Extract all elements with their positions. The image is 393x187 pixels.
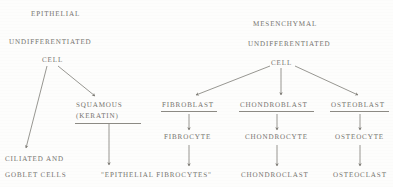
arrow-cell-to-fibroblast: [196, 66, 270, 95]
node-squamous-line1: SQUAMOUS: [76, 101, 123, 110]
arrow-cell-to-squamous: [58, 66, 95, 96]
heading-mesenchymal: MESENCHYMAL: [253, 20, 317, 29]
node-fibrocyte: FIBROCYTE: [164, 133, 211, 142]
underline-fibroblast: [161, 111, 217, 112]
subheading-undifferentiated-left: UNDIFFERENTIATED: [9, 38, 92, 47]
node-ciliated-line1: CILIATED AND: [5, 155, 64, 164]
node-chondroclast: CHONDROCLAST: [241, 171, 309, 180]
node-osteocyte: OSTEOCYTE: [335, 133, 384, 142]
node-cell-left: CELL: [42, 56, 63, 65]
arrow-cell-to-osteoblast: [295, 66, 358, 95]
arrow-cell-to-ciliated: [26, 66, 47, 148]
underline-squamous: [75, 123, 141, 124]
node-osteoblast: OSTEOBLAST: [331, 101, 385, 110]
node-chondrocyte: CHONDROCYTE: [245, 133, 308, 142]
node-epithelial-fibrocytes: "EPITHELIAL FIBROCYTES": [101, 171, 212, 180]
differentiation-diagram: EPITHELIAL UNDIFFERENTIATED CELL SQUAMOU…: [0, 0, 393, 187]
underline-chondroblast: [239, 111, 314, 112]
node-fibroblast: FIBROBLAST: [162, 101, 214, 110]
node-ciliated-line2: GOBLET CELLS: [5, 171, 67, 180]
node-osteoclast: OSTEOCLAST: [333, 171, 387, 180]
node-cell-right: CELL: [271, 59, 292, 68]
underline-osteoblast: [330, 111, 389, 112]
heading-epithelial: EPITHELIAL: [31, 10, 80, 19]
node-chondroblast: CHONDROBLAST: [240, 101, 308, 110]
subheading-undifferentiated-right: UNDIFFERENTIATED: [248, 40, 331, 49]
node-squamous-line2: (KERATIN): [76, 112, 119, 121]
